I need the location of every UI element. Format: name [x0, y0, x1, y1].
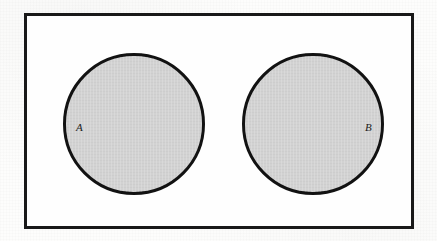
- universal-set-rectangle: A B: [24, 13, 414, 229]
- set-label-b: B: [365, 122, 372, 133]
- set-circle-b: [242, 53, 384, 195]
- set-label-a: A: [76, 122, 83, 133]
- set-circle-a: [63, 53, 205, 195]
- venn-diagram-figure: A B: [0, 0, 437, 241]
